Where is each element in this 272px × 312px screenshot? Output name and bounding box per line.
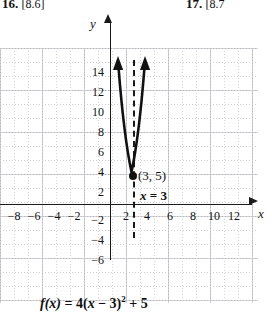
parabola-left-arrow-icon: [113, 56, 123, 70]
exercise-header-17: 17. [8.7: [186, 0, 225, 12]
function-constant-term: + 5: [126, 296, 148, 311]
function-equals-coefficient: = 4(: [61, 296, 88, 311]
exercise-section-16: [8.6]: [22, 0, 45, 11]
exercise-number-16: 16.: [2, 0, 18, 11]
parabola-right-arrow-icon: [140, 56, 150, 70]
function-equation: f(x) = 4(x − 3)2 + 5: [40, 294, 148, 312]
function-shift-term: − 3): [95, 296, 122, 311]
graph-figure: y x 14 12 10 8 6 4 2 −2 −4 −6 −8 −6 −4 −…: [0, 18, 272, 310]
vertex-coordinate-label: (3, 5): [138, 168, 166, 184]
exercise-section-17: [8.7: [206, 0, 225, 11]
function-variable: x: [88, 296, 95, 311]
parabola-curve: [0, 18, 272, 310]
function-argument: (x): [45, 296, 61, 311]
parabola-path: [119, 67, 145, 172]
exercise-number-17: 17.: [186, 0, 202, 11]
vertex-point-marker: [129, 172, 137, 180]
exercise-header-16: 16. [8.6]: [2, 0, 45, 12]
axis-of-symmetry-value: = 3: [147, 188, 167, 203]
axis-of-symmetry-label: x = 3: [140, 188, 167, 204]
